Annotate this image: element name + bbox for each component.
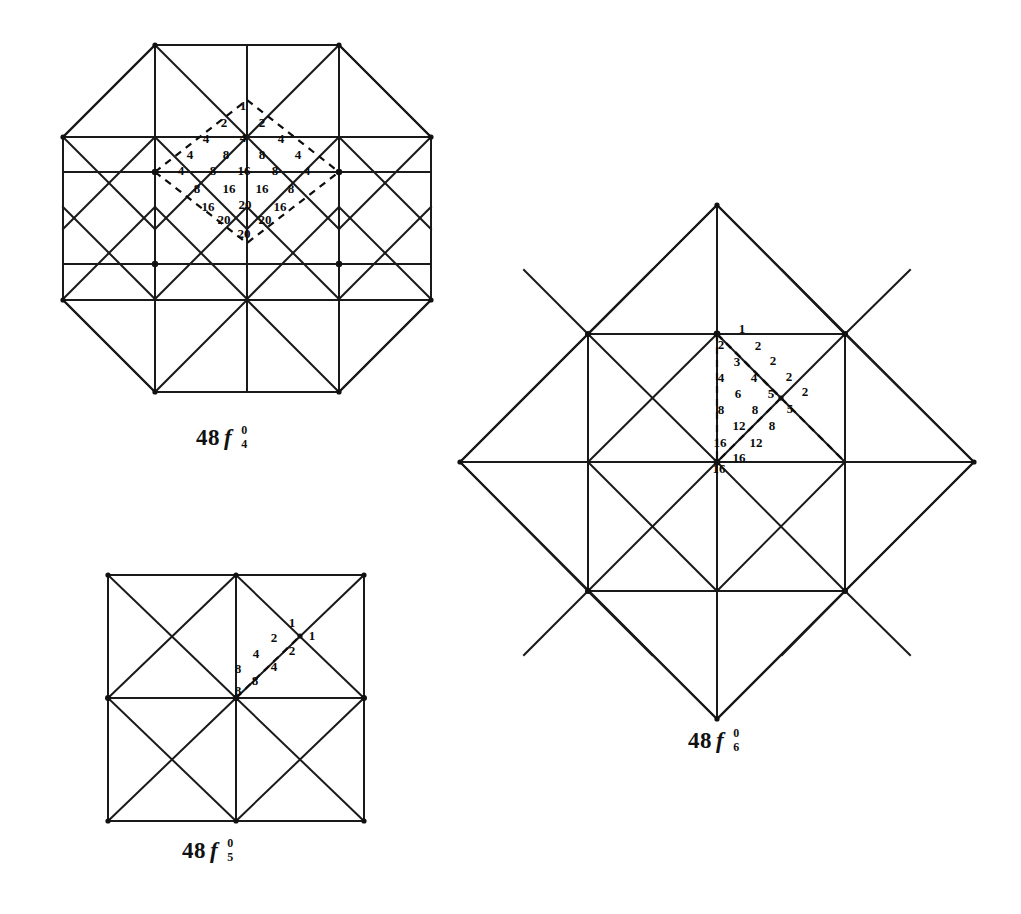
weight-label: 20 (218, 212, 231, 227)
weight-label: 6 (735, 386, 742, 401)
weight-label: 2 (755, 338, 762, 353)
caption-superscript: 0 (733, 726, 740, 741)
caption-symbol: f06 (716, 728, 733, 753)
caption-symbol: f04 (224, 425, 241, 450)
caption-48f5: 48f05 (182, 838, 227, 864)
weight-label: 8 (252, 673, 259, 688)
weight-label: 16 (733, 450, 747, 465)
weight-label: 20 (259, 212, 272, 227)
weight-label: 4 (295, 147, 302, 162)
weight-label: 2 (221, 115, 228, 130)
weight-label: 4 (178, 163, 185, 178)
weight-label: 2 (271, 630, 278, 645)
weight-label: 16 (713, 461, 727, 476)
weight-label: 5 (768, 386, 775, 401)
weight-label: 16 (274, 199, 288, 214)
weight-label: 8 (259, 147, 266, 162)
weight-label: 16 (238, 163, 252, 178)
weight-label: 4 (751, 370, 758, 385)
caption-superscript: 0 (227, 836, 234, 851)
caption-coefficient: 48 (182, 838, 206, 863)
caption-48f6: 48f06 (688, 728, 733, 754)
weight-label: 2 (770, 353, 777, 368)
square-number-labels: 112244888 (235, 615, 316, 698)
octagon-grid (63, 45, 431, 392)
caption-coefficient: 48 (196, 425, 220, 450)
octagon-number-labels: 1224444884481684816168162016202020 (178, 98, 311, 241)
weight-label: 8 (194, 181, 201, 196)
figure-octagon-48f4: 1224444884481684816168162016202020 (60, 42, 433, 394)
weight-label: 8 (718, 402, 725, 417)
weight-label: 4 (718, 370, 725, 385)
weight-label: 8 (235, 683, 242, 698)
weight-label: 4 (240, 130, 247, 145)
weight-label: 4 (278, 131, 285, 146)
caption-48f4: 48f04 (196, 425, 241, 451)
weight-label: 4 (271, 659, 278, 674)
weight-label: 16 (256, 181, 270, 196)
caption-subscript: 6 (733, 740, 740, 755)
caption-subscript: 5 (227, 850, 234, 865)
weight-label: 4 (203, 131, 210, 146)
weight-label: 1 (739, 321, 746, 336)
weight-label: 20 (239, 197, 252, 212)
caption-symbol: f05 (210, 838, 227, 863)
caption-subscript: 4 (241, 437, 248, 452)
figure-canvas: 1224444884481684816168162016202020 (0, 0, 1021, 914)
weight-label: 1 (289, 615, 296, 630)
weight-label: 8 (210, 163, 217, 178)
weight-label: 2 (786, 369, 793, 384)
weight-label: 12 (750, 435, 763, 450)
weight-label: 16 (223, 181, 237, 196)
figure-square-48f5: 112244888 (105, 572, 367, 823)
weight-label: 8 (752, 402, 759, 417)
weight-label: 2 (259, 115, 266, 130)
weight-label: 2 (718, 337, 725, 352)
weight-label: 1 (309, 628, 316, 643)
weight-label: 5 (787, 401, 794, 416)
weight-label: 3 (734, 354, 741, 369)
weight-label: 8 (235, 661, 242, 676)
weight-label: 4 (304, 163, 311, 178)
weight-label: 2 (802, 384, 809, 399)
weight-label: 12 (733, 418, 746, 433)
caption-superscript: 0 (241, 423, 248, 438)
weight-label: 8 (769, 418, 776, 433)
weight-label: 8 (223, 147, 230, 162)
weight-label: 2 (289, 643, 296, 658)
weight-label: 8 (272, 163, 279, 178)
weight-label: 4 (187, 147, 194, 162)
figure-diamond-48f6: 1223244265288512816121616 (457, 202, 976, 721)
weight-label: 20 (238, 226, 251, 241)
weight-label: 4 (253, 646, 260, 661)
weight-label: 16 (714, 435, 728, 450)
weight-label: 1 (240, 98, 247, 113)
weight-label: 16 (202, 199, 216, 214)
weight-label: 8 (288, 181, 295, 196)
caption-coefficient: 48 (688, 728, 712, 753)
